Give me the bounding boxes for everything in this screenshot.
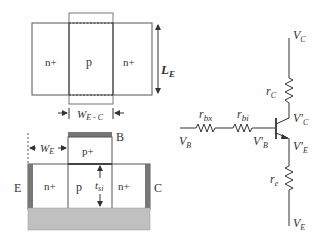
emitter-arrow-icon	[281, 134, 289, 139]
base-resistor-chain	[180, 124, 275, 132]
re-label: re	[270, 172, 279, 188]
ve-label: VE	[293, 216, 305, 232]
emitter-contact	[28, 164, 33, 209]
vb-prime-label: V'B	[253, 134, 268, 150]
vb-label: VB	[179, 134, 191, 150]
top-left-n-plus-label: n+	[45, 56, 57, 68]
top-right-n-plus-label: n+	[123, 56, 135, 68]
re-resistor	[285, 138, 293, 226]
thickness-label: tsi	[95, 179, 103, 193]
rbi-label: rbi	[237, 107, 249, 123]
vc-label: VC	[293, 28, 306, 44]
diagram-canvas: n+ p n+ LE WE - C p+ B n+ p n+ E C	[0, 0, 327, 244]
ve-prime-label: V'E	[293, 139, 308, 155]
rc-label: rC	[266, 84, 277, 100]
emitter-width-label: WE	[40, 142, 54, 156]
base-contact	[68, 132, 112, 137]
p-plus-label: p+	[82, 145, 94, 157]
vc-prime-label: V'C	[293, 111, 309, 127]
top-center-p-label: p	[86, 55, 92, 69]
rc-resistor	[285, 38, 293, 103]
arrow-up-icon	[155, 24, 161, 30]
top-view: n+ p n+ LE WE - C	[32, 13, 175, 122]
cs-left-n-plus-label: n+	[44, 180, 56, 192]
emitter-label: E	[14, 181, 21, 195]
base-label: B	[116, 130, 124, 144]
width-ec-label: WE - C	[77, 108, 104, 122]
cross-section: p+ B n+ p n+ E C tsi WE	[14, 130, 162, 230]
collector-label: C	[154, 181, 162, 195]
substrate	[28, 208, 150, 230]
cs-p-label: p	[76, 180, 82, 194]
rbx-label: rbx	[199, 107, 212, 123]
collector-contact	[145, 164, 150, 209]
cs-right-n-plus-label: n+	[118, 180, 130, 192]
arrow-down-icon	[155, 88, 161, 94]
equivalent-circuit	[180, 38, 293, 226]
collector-lead	[276, 103, 289, 124]
